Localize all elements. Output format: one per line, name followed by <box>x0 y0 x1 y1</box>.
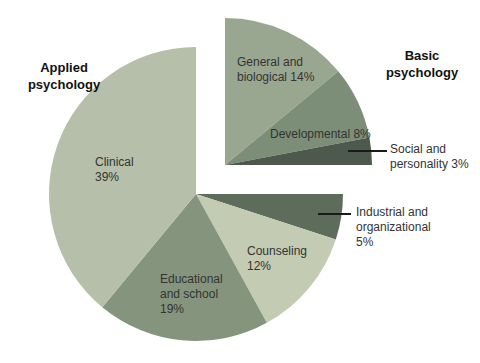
label-educational-school: Educational and school 19% <box>160 272 223 317</box>
label-social-personality: Social and personality 3% <box>390 142 469 172</box>
applied-psychology-title: Applied psychology <box>14 59 114 93</box>
label-industrial-organizational: Industrial and organizational 5% <box>356 205 431 250</box>
label-counseling: Counseling 12% <box>247 244 307 274</box>
label-clinical: Clinical 39% <box>95 155 134 185</box>
pie-chart-figure: Applied psychology Basic psychology Gene… <box>0 0 480 363</box>
basic-psychology-title: Basic psychology <box>372 47 472 81</box>
label-general-biological: General and biological 14% <box>237 55 314 85</box>
label-developmental: Developmental 8% <box>270 127 371 142</box>
